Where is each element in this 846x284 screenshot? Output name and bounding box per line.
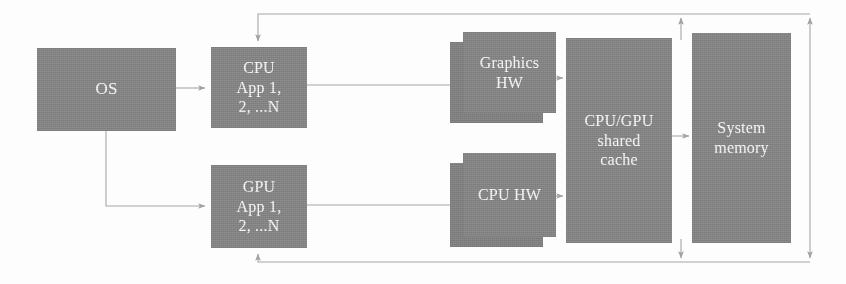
system-memory-block-label-line-1: System xyxy=(717,118,765,138)
system-memory-block: Systemmemory xyxy=(692,33,791,243)
cpu-gpu-shared-cache-block-label-line-1: CPU/GPU xyxy=(585,111,654,131)
os-block: OS xyxy=(37,48,176,131)
cpu-gpu-shared-cache-block-label-line-2: shared xyxy=(598,131,641,151)
cpu-hw-block: CPU HW xyxy=(463,153,556,237)
gpu-app-block-label-line-1: GPU xyxy=(243,177,276,197)
cpu-app-block: CPUApp 1,2, ...N xyxy=(211,47,307,128)
connector-bottom-return-bus xyxy=(258,254,810,262)
cpu-app-block-label-line-2: App 1, xyxy=(237,78,282,98)
graphics-hw-block-label-line-1: Graphics xyxy=(480,53,539,73)
cpu-app-block-label-line-3: 2, ...N xyxy=(239,97,280,117)
cpu-hw-block-label-line-1: CPU HW xyxy=(478,185,541,205)
os-block-label-line-1: OS xyxy=(95,79,117,100)
diagram-canvas: OSCPUApp 1,2, ...NGPUApp 1,2, ...NGraphi… xyxy=(0,0,846,284)
system-memory-block-label-line-2: memory xyxy=(714,138,769,158)
gpu-app-block: GPUApp 1,2, ...N xyxy=(211,165,307,248)
cpu-app-block-label-line-1: CPU xyxy=(243,58,275,78)
cpu-gpu-shared-cache-block: CPU/GPUsharedcache xyxy=(566,38,672,243)
graphics-hw-block-label-line-2: HW xyxy=(496,73,523,93)
gpu-app-block-label-line-2: App 1, xyxy=(237,197,282,217)
cpu-gpu-shared-cache-block-label-line-3: cache xyxy=(600,150,637,170)
gpu-app-block-label-line-3: 2, ...N xyxy=(239,216,280,236)
connector-os-to-gpu-app xyxy=(106,131,205,206)
graphics-hw-block: GraphicsHW xyxy=(463,32,556,113)
